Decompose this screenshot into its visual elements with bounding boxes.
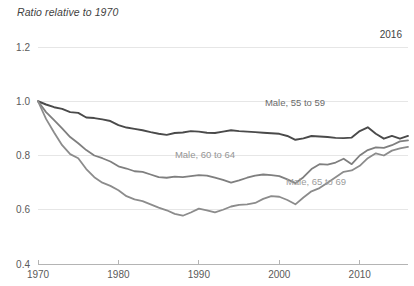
series-label-1: Male, 60 to 64	[175, 149, 235, 160]
x-axis-tick-label: 1970	[27, 269, 50, 280]
x-axis-tick-label: 2010	[349, 269, 372, 280]
series-label-0: Male, 55 to 59	[265, 97, 325, 108]
series-label-2: Male, 65 to 69	[286, 176, 346, 187]
y-axis-tick-label: 1.2	[16, 42, 30, 53]
y-axis-tick-label: 0.4	[16, 259, 30, 270]
y-axis-tick-label: 0.8	[16, 150, 30, 161]
x-axis-tick-label: 1990	[188, 269, 211, 280]
x-axis-tick-label: 2000	[268, 269, 291, 280]
chart-container: Ratio relative to 1970 2016 0.40.60.81.0…	[0, 0, 414, 286]
series-line-0	[38, 101, 408, 140]
x-axis-tick-label: 1980	[107, 269, 130, 280]
line-chart-plot: 0.40.60.81.01.219701980199020002010Male,…	[0, 0, 414, 286]
y-axis-tick-label: 1.0	[16, 96, 30, 107]
y-axis-tick-label: 0.6	[16, 204, 30, 215]
